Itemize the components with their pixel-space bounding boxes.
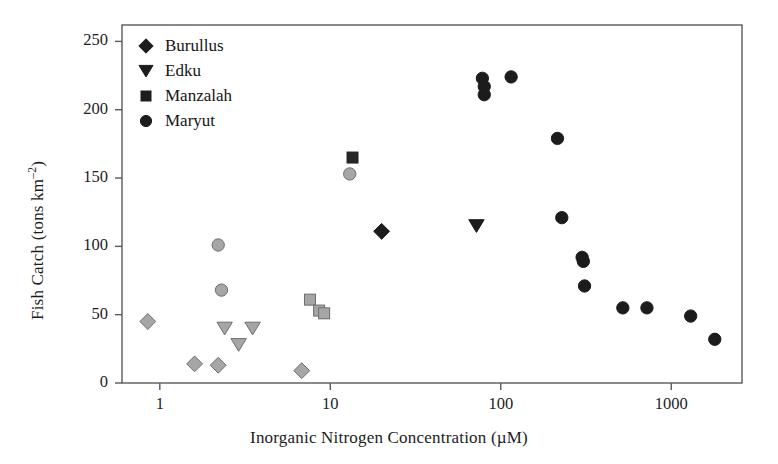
data-point bbox=[344, 168, 356, 180]
y-axis-label-exponent: –2 bbox=[26, 167, 39, 179]
data-point bbox=[578, 280, 590, 292]
data-point bbox=[187, 356, 203, 372]
data-point bbox=[577, 255, 589, 267]
y-tick-label: 50 bbox=[64, 304, 108, 324]
x-axis-label: Inorganic Nitrogen Concentration (µM) bbox=[250, 428, 528, 448]
square-icon bbox=[136, 87, 156, 105]
y-tick-label: 200 bbox=[64, 99, 108, 119]
x-tick-label: 1000 bbox=[641, 394, 701, 414]
data-point bbox=[245, 322, 260, 335]
data-point bbox=[347, 152, 358, 163]
data-point bbox=[556, 212, 568, 224]
diamond-icon bbox=[136, 37, 156, 55]
data-point bbox=[709, 333, 721, 345]
data-point bbox=[685, 310, 697, 322]
legend-label: Edku bbox=[165, 61, 201, 81]
data-point bbox=[294, 363, 310, 379]
circle-icon bbox=[136, 112, 156, 130]
data-point bbox=[641, 302, 653, 314]
y-tick-label: 250 bbox=[64, 30, 108, 50]
data-point bbox=[304, 294, 315, 305]
legend-item-burullus: Burullus bbox=[136, 33, 232, 58]
legend-label: Maryut bbox=[165, 111, 215, 131]
scatter-plot-figure: 050100150200250 1101001000 Fish Catch (t… bbox=[0, 0, 778, 464]
legend-label: Manzalah bbox=[165, 86, 232, 106]
y-axis-label: Fish Catch (tons km–2) bbox=[26, 161, 48, 320]
data-point bbox=[210, 357, 226, 373]
data-point bbox=[505, 71, 517, 83]
y-tick-label: 150 bbox=[64, 167, 108, 187]
legend-item-edku: Edku bbox=[136, 58, 232, 83]
data-point bbox=[469, 220, 484, 233]
data-point bbox=[374, 223, 390, 239]
data-point bbox=[319, 308, 330, 319]
legend-label: Burullus bbox=[165, 36, 224, 56]
legend-item-manzalah: Manzalah bbox=[136, 83, 232, 108]
y-tick-label: 0 bbox=[64, 372, 108, 392]
data-point bbox=[215, 284, 227, 296]
triangle-down-icon bbox=[136, 62, 156, 80]
x-tick-label: 1 bbox=[130, 394, 190, 414]
data-point bbox=[217, 322, 232, 335]
data-point bbox=[231, 339, 246, 352]
x-tick-label: 10 bbox=[300, 394, 360, 414]
y-axis-label-close: ) bbox=[28, 161, 47, 167]
y-axis-label-text: Fish Catch (tons km bbox=[28, 179, 47, 320]
y-tick-label: 100 bbox=[64, 235, 108, 255]
data-point bbox=[212, 239, 224, 251]
data-point bbox=[551, 132, 563, 144]
data-point bbox=[478, 89, 490, 101]
data-point bbox=[140, 314, 156, 330]
chart-legend: BurullusEdkuManzalahMaryut bbox=[136, 33, 232, 133]
legend-item-maryut: Maryut bbox=[136, 108, 232, 133]
x-tick-label: 100 bbox=[471, 394, 531, 414]
data-point bbox=[617, 302, 629, 314]
